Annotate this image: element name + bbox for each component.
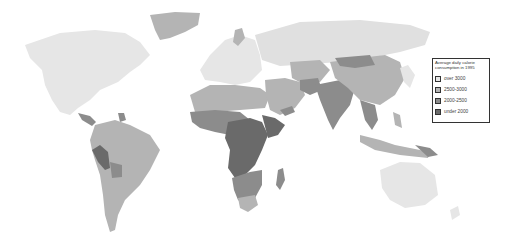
legend-label: under 2000	[444, 109, 468, 114]
region-south-africa	[238, 195, 258, 212]
region-caribbean	[118, 113, 126, 122]
region-southeast-asia	[360, 100, 378, 130]
legend-label: 2500-3000	[444, 87, 467, 92]
region-madagascar	[276, 168, 285, 190]
region-central-africa	[225, 118, 268, 178]
legend-label: over 3000	[444, 76, 465, 81]
legend-swatch	[435, 109, 441, 115]
legend-swatch	[435, 76, 441, 82]
region-greenland	[150, 12, 200, 40]
region-europe	[200, 35, 262, 85]
region-philippines	[393, 112, 402, 128]
region-australia	[380, 162, 438, 208]
region-new-zealand	[450, 206, 460, 220]
legend-title: Average daily calorie consumption in 199…	[435, 61, 487, 70]
legend-item-over-3000: over 3000	[435, 73, 487, 84]
legend-item-2500-3000: 2500-3000	[435, 84, 487, 95]
legend-swatch	[435, 98, 441, 104]
region-north-america	[25, 30, 150, 115]
region-south-america	[90, 120, 160, 232]
legend-item-2000-2500: 2000-2500	[435, 95, 487, 106]
world-map	[0, 0, 514, 247]
region-north-africa	[190, 85, 270, 112]
legend-swatch	[435, 87, 441, 93]
legend-label: 2000-2500	[444, 98, 467, 103]
map-legend: Average daily calorie consumption in 199…	[432, 58, 490, 123]
region-central-america	[78, 113, 96, 126]
legend-item-under-2000: under 2000	[435, 106, 487, 117]
